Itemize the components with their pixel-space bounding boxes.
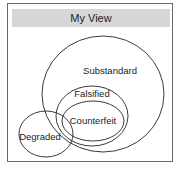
falsified-label: Falsified: [74, 88, 109, 99]
substandard-label: Substandard: [83, 65, 137, 76]
venn-diagram: Substandard Falsified Counterfeit Degrad…: [0, 0, 180, 179]
degraded-label: Degraded: [19, 131, 61, 142]
counterfeit-label: Counterfeit: [70, 115, 117, 126]
